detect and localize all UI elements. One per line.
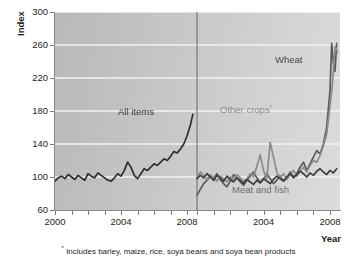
x-tick-mark xyxy=(121,211,122,215)
x-tick-label: 2000 xyxy=(35,216,75,227)
footnote-text: Includes barley, maize, rice, soya beans… xyxy=(66,247,295,256)
x-tick-label: 2008 xyxy=(310,216,350,227)
series-label-meat-and-fish: Meat and fish xyxy=(232,184,289,195)
y-tick-label: 180 xyxy=(6,105,48,116)
x-tick-mark xyxy=(55,211,56,215)
series-line-all-items xyxy=(55,114,193,181)
y-tick-label: 260 xyxy=(6,39,48,50)
y-tick-label: 140 xyxy=(6,138,48,149)
x-tick-mark xyxy=(313,211,314,215)
x-tick-mark xyxy=(88,211,89,215)
plot-area: All items Wheat Other crops* Meat and fi… xyxy=(55,12,340,210)
x-tick-mark xyxy=(280,211,281,215)
chart-canvas xyxy=(55,12,340,210)
chart-figure: Index 60100140180220260300 All items Whe… xyxy=(0,0,357,265)
x-tick-mark xyxy=(154,211,155,215)
x-tick-label: 2004 xyxy=(101,216,141,227)
series-label-wheat: Wheat xyxy=(275,54,302,65)
y-tick-label: 60 xyxy=(6,204,48,215)
chart-footnote: * Includes barley, maize, rice, soya bea… xyxy=(0,245,357,256)
x-tick-mark xyxy=(171,211,172,215)
y-tick-label: 300 xyxy=(6,6,48,17)
x-tick-mark xyxy=(105,211,106,215)
x-axis-title: Year xyxy=(321,233,341,244)
series-label-other-crops-text: Other crops xyxy=(220,104,270,115)
x-tick-mark xyxy=(197,211,198,215)
series-label-other-crops: Other crops* xyxy=(220,104,272,115)
x-tick-mark xyxy=(297,211,298,215)
y-tick-label: 220 xyxy=(6,72,48,83)
x-tick-label: 2004 xyxy=(244,216,284,227)
x-tick-label: 2008 xyxy=(167,216,207,227)
x-tick-mark xyxy=(330,211,331,215)
series-label-all-items: All items xyxy=(118,106,154,117)
y-axis-line xyxy=(54,12,55,211)
other-crops-footnote-marker: * xyxy=(270,104,272,110)
x-tick-mark xyxy=(230,211,231,215)
x-tick-mark xyxy=(138,211,139,215)
x-tick-mark xyxy=(187,211,188,215)
x-tick-mark xyxy=(214,211,215,215)
y-tick-label: 100 xyxy=(6,171,48,182)
x-tick-mark xyxy=(264,211,265,215)
x-tick-mark xyxy=(247,211,248,215)
footnote-marker: * xyxy=(62,245,64,251)
x-tick-mark xyxy=(72,211,73,215)
